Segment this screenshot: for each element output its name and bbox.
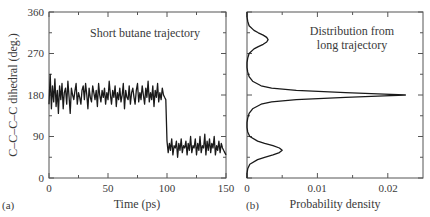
ytick-label: 90 bbox=[33, 130, 45, 142]
panel-a-label: (a) bbox=[2, 199, 15, 212]
panel-b-xtick-labels: 0 0.01 0.02 bbox=[244, 182, 397, 194]
dihedral-trajectory-line bbox=[49, 74, 226, 157]
panel-b-title-line2: long trajectory bbox=[317, 38, 387, 52]
xtick-label: 0.01 bbox=[307, 182, 326, 194]
xtick-label: 0.02 bbox=[378, 182, 397, 194]
panel-a-ylabel: C–C–C–C dihedral (deg.) bbox=[6, 33, 20, 157]
ytick-label: 270 bbox=[28, 47, 45, 59]
panel-b-xlabel: Probability density bbox=[290, 197, 381, 211]
ytick-label: 180 bbox=[28, 89, 45, 101]
xtick-label: 0 bbox=[244, 182, 250, 194]
panel-a-xlabel: Time (ps) bbox=[114, 197, 161, 211]
xtick-label: 100 bbox=[159, 182, 176, 194]
panel-b: Distribution from long trajectory 0 0.01… bbox=[244, 12, 423, 212]
panel-a: Short butane trajectory 360 270 180 90 0… bbox=[2, 6, 235, 212]
xtick-label: 50 bbox=[103, 182, 115, 194]
panel-b-label: (b) bbox=[246, 199, 259, 212]
panel-a-ytick-labels: 360 270 180 90 0 bbox=[28, 6, 45, 184]
panel-a-title: Short butane trajectory bbox=[90, 26, 200, 40]
ytick-label: 360 bbox=[28, 6, 45, 18]
panel-a-xtick-labels: 0 50 100 150 bbox=[46, 182, 235, 194]
xtick-label: 0 bbox=[46, 182, 52, 194]
figure: Short butane trajectory 360 270 180 90 0… bbox=[0, 0, 430, 217]
xtick-label: 150 bbox=[218, 182, 235, 194]
panel-b-title-line1: Distribution from bbox=[310, 24, 395, 38]
ytick-label: 0 bbox=[39, 172, 45, 184]
